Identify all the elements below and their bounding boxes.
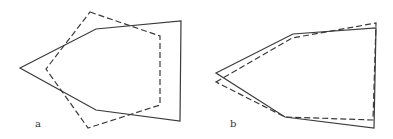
solid-polygon-b bbox=[216, 28, 376, 128]
dashed-polygon-b bbox=[216, 23, 376, 120]
diagram-canvas bbox=[0, 0, 393, 139]
panel-label-a: a bbox=[35, 118, 41, 129]
panel-label-b: b bbox=[230, 118, 236, 129]
panel-a bbox=[20, 12, 181, 128]
panel-b bbox=[216, 23, 376, 128]
